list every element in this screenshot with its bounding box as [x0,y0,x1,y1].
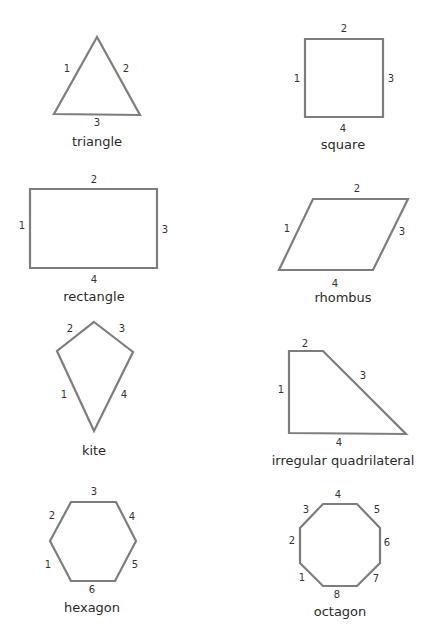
side-number: 4 [91,274,97,285]
side-number: 1 [64,63,70,74]
shape-rectangle: 1234rectangle [19,174,168,304]
side-number: 3 [162,224,168,235]
side-number: 4 [332,278,338,289]
shape-label: kite [82,443,106,458]
shape-hexagon: 123456hexagon [45,486,138,615]
shape-rhombus: 1234rhombus [279,183,408,305]
side-number: 2 [302,338,308,349]
side-number: 2 [289,535,295,546]
side-number: 2 [123,63,129,74]
shape-label: hexagon [64,600,120,615]
side-number: 1 [61,389,67,400]
side-number: 6 [384,537,390,548]
side-number: 1 [19,220,25,231]
side-number: 2 [341,23,347,34]
shape-square: 1234square [294,23,394,152]
square-outline [305,39,383,117]
side-number: 3 [91,486,97,497]
shape-label: square [321,137,365,152]
side-number: 3 [360,370,366,381]
shape-triangle: 123triangle [54,37,140,149]
shape-label: irregular quadrilateral [272,453,415,468]
side-number: 4 [340,123,346,134]
side-number: 4 [129,511,135,522]
shape-label: triangle [72,134,122,149]
side-number: 5 [132,559,138,570]
kite-outline [57,322,133,431]
side-number: 3 [388,73,394,84]
side-number: 8 [334,589,340,600]
hexagon-outline [50,502,136,581]
side-number: 1 [294,73,300,84]
side-number: 1 [284,223,290,234]
side-number: 3 [399,226,405,237]
side-number: 2 [91,174,97,185]
side-number: 1 [45,559,51,570]
side-number: 7 [373,573,379,584]
shape-label: octagon [314,604,367,619]
shape-octagon: 12345678octagon [289,489,390,619]
side-number: 2 [67,323,73,334]
shape-label: rectangle [63,289,124,304]
side-number: 4 [335,489,341,500]
side-number: 4 [121,389,127,400]
polygon-diagram: 123triangle1234square1234rectangle1234rh… [0,0,422,631]
side-number: 6 [89,584,95,595]
octagon-outline [300,504,380,586]
side-number: 1 [299,572,305,583]
rhombus-outline [279,199,408,270]
side-number: 1 [278,384,284,395]
side-number: 2 [354,183,360,194]
side-number: 3 [119,323,125,334]
irregular-quadrilateral-outline [289,351,406,434]
shape-kite: 1234kite [57,322,133,458]
rectangle-outline [30,189,157,268]
shape-irregular-quadrilateral: 1234irregular quadrilateral [272,338,415,468]
side-number: 2 [49,510,55,521]
shape-label: rhombus [314,290,371,305]
triangle-outline [54,37,140,115]
side-number: 4 [336,437,342,448]
side-number: 5 [374,504,380,515]
side-number: 3 [94,117,100,128]
side-number: 3 [303,504,309,515]
